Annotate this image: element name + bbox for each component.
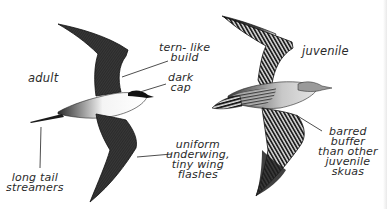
- adult-tail-streamers: [30, 114, 64, 123]
- label-adult: adult: [28, 73, 58, 83]
- annotation-long-tail-streamers: long tail streamers: [6, 173, 64, 193]
- adult-lower-wing: [90, 114, 137, 202]
- juvenile-bird: [212, 16, 332, 196]
- page-edge: [383, 0, 387, 209]
- label-juvenile: juvenile: [302, 46, 349, 56]
- adult-upper-wing: [58, 24, 128, 96]
- adult-body: [58, 93, 147, 119]
- annotation-barred-buffer: barred buffer than other juvenile skuas: [318, 127, 378, 177]
- leader-long-tail: [40, 127, 41, 168]
- leader-tern-like: [122, 61, 168, 77]
- juvenile-tail: [212, 96, 242, 109]
- leader-dark-cap: [140, 84, 166, 92]
- illustration-figure: adult tern- like build dark cap uniform …: [0, 0, 387, 209]
- annotation-tern-like-build: tern- like build: [159, 43, 210, 63]
- juvenile-head: [298, 82, 332, 92]
- annotation-dark-cap: dark cap: [168, 73, 193, 93]
- annotation-uniform-underwing: uniform underwing, tiny wing flashes: [166, 140, 230, 180]
